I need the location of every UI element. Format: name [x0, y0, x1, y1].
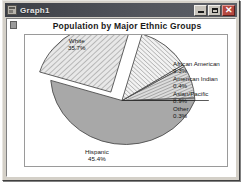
- plot-frame: White 35.7% Hispanic 45.4% African Ameri…: [24, 34, 228, 167]
- graph-window-icon: [7, 5, 17, 15]
- graph-window[interactable]: Graph1 ✕ Population by Major Ethnic Grou…: [2, 0, 240, 181]
- chart-title: Population by Major Ethnic Groups: [25, 21, 229, 31]
- close-button[interactable]: ✕: [222, 5, 235, 16]
- window-button-group: ✕: [194, 5, 236, 16]
- slice-label-american-indian: American Indian 0.4%: [173, 75, 218, 89]
- slice-label-hispanic: Hispanic 45.4%: [85, 148, 109, 162]
- minimize-button[interactable]: [194, 5, 207, 16]
- chart-client-area: Population by Major Ethnic Groups: [6, 18, 236, 177]
- slice-label-white: White 35.7%: [68, 37, 86, 51]
- sheet-corner-handle[interactable]: [10, 21, 17, 29]
- slice-label-asian-pacific: Asian/Pacific 8.9%: [173, 90, 208, 104]
- slice-label-other: Other 0.3%: [173, 105, 188, 119]
- window-titlebar[interactable]: Graph1 ✕: [5, 3, 237, 17]
- window-title: Graph1: [20, 6, 194, 15]
- slice-label-african-american: African American 9.3%: [173, 60, 220, 74]
- maximize-button[interactable]: [208, 5, 221, 16]
